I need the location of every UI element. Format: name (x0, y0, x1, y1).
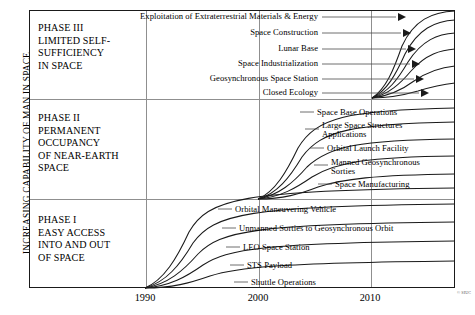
callout-exploitation-extraterrestrial: Exploitation of Extraterrestrial Materia… (60, 12, 318, 22)
callout-orbital-launch-facility: Orbital Launch Facility (327, 144, 409, 154)
arrowhead-lunar-base-icon (408, 45, 416, 53)
phase-3-curves (372, 11, 455, 98)
xtick-1990: 1990 (115, 292, 175, 303)
callout-geosynchronous-space-station: Geosynchronous Space Station (60, 74, 318, 84)
curve-space-construction (372, 20, 455, 98)
curve-space-industrialization (372, 49, 455, 98)
callout-large-space-structures: Large Space Structures Applications (322, 121, 430, 140)
callout-orbital-maneuvering-vehicle: Orbital Maneuvering Vehicle (235, 205, 336, 215)
callout-space-manufacturing: Space Manufacturing (335, 180, 410, 190)
arrowhead-space-industrialization-icon (412, 60, 420, 68)
callout-lunar-base: Lunar Base (60, 44, 318, 54)
phase-1-curves (145, 188, 455, 288)
xtick-2000: 2000 (228, 292, 288, 303)
callout-leo-space-station: LEO Space Station (243, 243, 310, 253)
diagram-root: INCREASING CAPABILITY OF MAN IN SPACE PH… (0, 0, 475, 315)
callout-manned-geosynchronous-sorties: Manned Geosynchronous Sorties (331, 158, 439, 177)
callout-unmanned-sorties: Unmanned Sorties to Geosynchronous Orbit (239, 224, 393, 234)
xtick-2010: 2010 (340, 292, 400, 303)
copyright-credit: © SIUC (457, 290, 471, 295)
callout-closed-ecology: Closed Ecology (60, 88, 318, 98)
callout-sts-payload: STS Payload (247, 261, 292, 271)
arrowhead-closed-ecology-icon (421, 89, 429, 97)
callout-space-base-operations: Space Base Operations (317, 108, 397, 118)
callout-space-industrialization: Space Industrialization (60, 59, 318, 69)
callout-space-construction: Space Construction (60, 28, 318, 38)
callout-shuttle-operations: Shuttle Operations (251, 278, 316, 288)
arrowhead-exploitation-icon (398, 13, 406, 21)
